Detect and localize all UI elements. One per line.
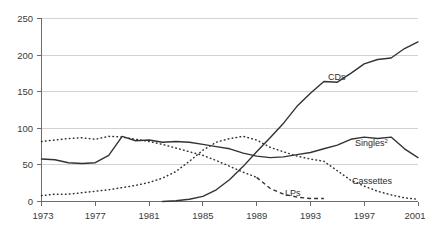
y-label-0: 0 [28, 196, 33, 207]
chart-background [0, 0, 425, 243]
y-label-250: 250 [17, 13, 33, 24]
x-label-1997: 1997 [354, 210, 375, 221]
chart-container: 250 200 150 100 50 0 1973 1977 1981 1985… [0, 0, 425, 243]
y-label-200: 200 [17, 50, 33, 61]
x-label-1993: 1993 [300, 210, 321, 221]
series-label-singles: Singles2 [355, 138, 389, 148]
x-label-1981: 1981 [139, 210, 160, 221]
x-label-1989: 1989 [246, 210, 267, 221]
series-label-cassettes: Cassettes [352, 176, 393, 186]
series-label-cds: CDs [328, 72, 346, 82]
x-label-1977: 1977 [85, 210, 106, 221]
x-label-1973: 1973 [32, 210, 53, 221]
y-label-50: 50 [22, 159, 33, 170]
x-label-1985: 1985 [192, 210, 213, 221]
y-label-100: 100 [17, 123, 33, 134]
y-label-150: 150 [17, 86, 33, 97]
series-label-singles-text: Singles [355, 138, 385, 148]
line-chart: 250 200 150 100 50 0 1973 1977 1981 1985… [0, 0, 425, 243]
series-label-lps: LPs [285, 188, 301, 198]
x-label-2001: 2001 [404, 210, 425, 221]
